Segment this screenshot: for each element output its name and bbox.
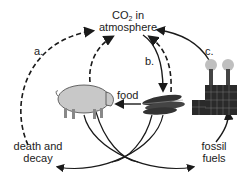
factory-icon (192, 59, 237, 115)
arrow-pig-to-atmosphere (90, 37, 112, 82)
arrow-label-a: a. (34, 45, 43, 57)
corn-icon (142, 93, 186, 116)
arrow-c-solid (158, 30, 209, 60)
arrow-label-b: b. (145, 55, 154, 67)
fossil-fuels-label: fossil fuels (194, 140, 234, 164)
death-decay-label: death and decay (12, 140, 64, 164)
pig-icon (56, 85, 113, 119)
food-label: food (117, 89, 138, 101)
arrow-label-c: c. (205, 45, 214, 57)
arrow-fossil-to-factory (216, 113, 228, 142)
atmosphere-label: CO2 in atmosphere (96, 9, 160, 33)
